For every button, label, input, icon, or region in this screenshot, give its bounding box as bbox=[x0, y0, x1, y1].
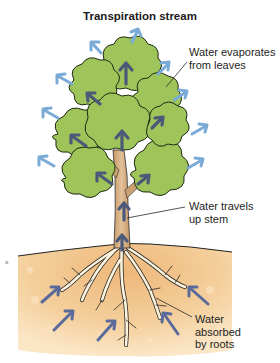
label-line: absorbed bbox=[195, 326, 241, 339]
label-line: from leaves bbox=[189, 59, 275, 72]
diagram-title: Transpiration stream bbox=[0, 10, 280, 22]
arrow-up-left-icon bbox=[39, 156, 54, 166]
arrow-up-left-icon bbox=[91, 42, 101, 53]
label-line: Water travels bbox=[189, 200, 253, 213]
svg-text:a: a bbox=[5, 259, 9, 265]
label-line: up stem bbox=[189, 213, 253, 226]
arrow-up-right-icon bbox=[188, 158, 203, 168]
label-line: Water evaporates bbox=[189, 46, 275, 59]
arrow-up-left-icon bbox=[43, 108, 58, 118]
label-water-evaporates: Water evaporates from leaves bbox=[189, 46, 275, 71]
label-line: Water bbox=[195, 313, 241, 326]
arrow-up-left-icon bbox=[57, 74, 72, 84]
leader-line-stem bbox=[127, 207, 185, 218]
label-water-travels: Water travels up stem bbox=[189, 200, 253, 225]
label-line: by roots bbox=[195, 338, 241, 351]
label-water-absorbed: Water absorbed by roots bbox=[195, 313, 241, 351]
arrow-up-right-icon bbox=[192, 124, 207, 134]
